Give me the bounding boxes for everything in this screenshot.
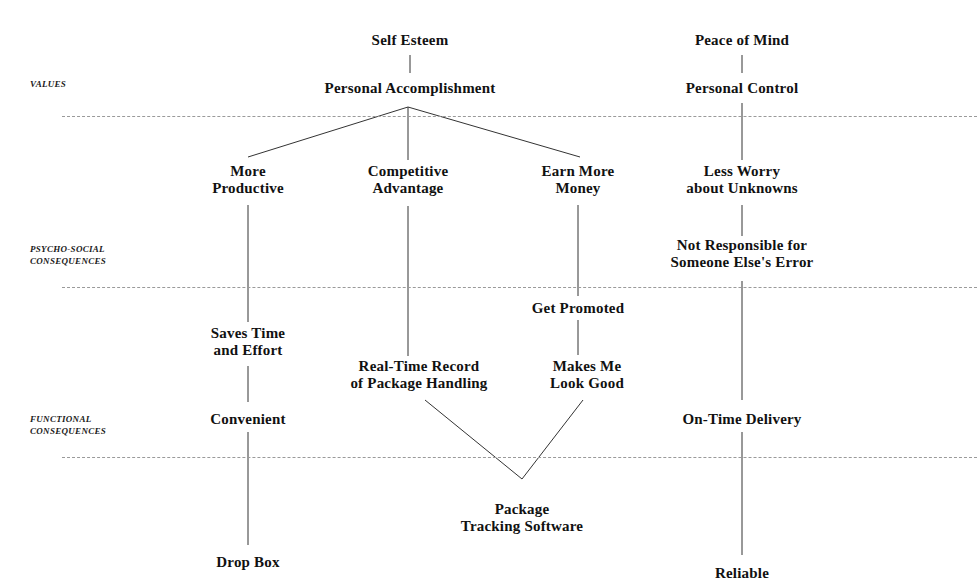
- concept-node-drop-box: Drop Box: [216, 554, 279, 571]
- concept-node-label: Get Promoted: [532, 300, 625, 316]
- concept-node-saves-time-and-effort: Saves Timeand Effort: [211, 325, 285, 359]
- concept-node-label: Convenient: [210, 411, 285, 427]
- concept-node-label: On-Time Delivery: [682, 411, 801, 427]
- concept-node-reliable: Reliable: [715, 565, 769, 582]
- level-label-text: FUNCTIONAL: [30, 414, 92, 424]
- concept-node-label: Not Responsible for: [677, 237, 807, 253]
- concept-node-real-time-record-of-package-handling: Real-Time Recordof Package Handling: [350, 358, 487, 392]
- edge-personal-accomplishment-to-more-productive: [248, 107, 408, 157]
- level-label-values: VALUES: [30, 78, 66, 90]
- concept-node-label: Package: [495, 501, 550, 517]
- level-label-psycho-social: PSYCHO-SOCIALCONSEQUENCES: [30, 243, 106, 267]
- concept-node-label: Advantage: [368, 180, 449, 197]
- concept-node-label: Personal Accomplishment: [325, 80, 496, 96]
- concept-node-label: of Package Handling: [350, 375, 487, 392]
- level-label-functional: FUNCTIONALCONSEQUENCES: [30, 413, 106, 437]
- level-label-text: CONSEQUENCES: [30, 425, 106, 437]
- concept-node-label: Drop Box: [216, 554, 279, 570]
- concept-node-label: Productive: [212, 180, 284, 197]
- concept-node-label: Earn More: [542, 163, 615, 179]
- concept-node-personal-accomplishment: Personal Accomplishment: [325, 80, 496, 97]
- concept-node-label: Tracking Software: [461, 518, 583, 535]
- concept-node-label: Real-Time Record: [359, 358, 480, 374]
- level-label-text: PSYCHO-SOCIAL: [30, 244, 105, 254]
- level-label-text: CONSEQUENCES: [30, 255, 106, 267]
- concept-node-label: Money: [542, 180, 615, 197]
- concept-node-peace-of-mind: Peace of Mind: [695, 32, 789, 49]
- concept-node-not-responsible-for-someone-elses-error: Not Responsible forSomeone Else's Error: [671, 237, 814, 271]
- concept-node-convenient: Convenient: [210, 411, 285, 428]
- concept-node-label: Self Esteem: [372, 32, 449, 48]
- concept-node-label: Reliable: [715, 565, 769, 581]
- concept-node-less-worry-about-unknowns: Less Worryabout Unknowns: [686, 163, 798, 197]
- concept-node-more-productive: MoreProductive: [212, 163, 284, 197]
- concept-node-makes-me-look-good: Makes MeLook Good: [550, 358, 624, 392]
- concept-node-package-tracking-software: PackageTracking Software: [461, 501, 583, 535]
- psycho-social-divider: [62, 287, 977, 288]
- concept-node-label: Competitive: [368, 163, 449, 179]
- concept-node-get-promoted: Get Promoted: [532, 300, 625, 317]
- level-label-text: VALUES: [30, 79, 66, 89]
- edge-personal-accomplishment-to-earn-more-money: [408, 107, 580, 157]
- concept-node-earn-more-money: Earn MoreMoney: [542, 163, 615, 197]
- concept-node-label: Someone Else's Error: [671, 254, 814, 271]
- edge-real-time-record-to-package-tracking: [425, 400, 522, 479]
- concept-node-label: Saves Time: [211, 325, 285, 341]
- concept-node-on-time-delivery: On-Time Delivery: [682, 411, 801, 428]
- concept-node-label: Less Worry: [704, 163, 780, 179]
- concept-node-label: and Effort: [211, 342, 285, 359]
- functional-divider: [62, 457, 977, 458]
- concept-node-self-esteem: Self Esteem: [372, 32, 449, 49]
- hierarchical-value-map-diagram: VALUESPSYCHO-SOCIALCONSEQUENCESFUNCTIONA…: [0, 0, 977, 587]
- concept-node-label: Personal Control: [686, 80, 799, 96]
- concept-node-personal-control: Personal Control: [686, 80, 799, 97]
- concept-node-label: Peace of Mind: [695, 32, 789, 48]
- concept-node-competitive-advantage: CompetitiveAdvantage: [368, 163, 449, 197]
- edge-makes-me-look-good-to-package-tracking: [522, 400, 583, 479]
- values-divider: [62, 116, 977, 117]
- concept-node-label: Makes Me: [553, 358, 622, 374]
- concept-node-label: More: [230, 163, 266, 179]
- concept-node-label: about Unknowns: [686, 180, 798, 197]
- concept-node-label: Look Good: [550, 375, 624, 392]
